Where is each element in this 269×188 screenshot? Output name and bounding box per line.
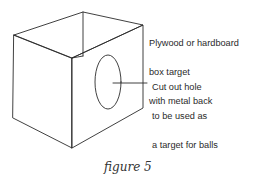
hole-label: Cut out hole to be used as a target for … bbox=[152, 64, 218, 160]
box-top-opening bbox=[14, 12, 143, 58]
figure-caption: figure 5 bbox=[104, 160, 152, 174]
target-hole bbox=[95, 55, 121, 109]
box-left-face bbox=[13, 35, 72, 148]
